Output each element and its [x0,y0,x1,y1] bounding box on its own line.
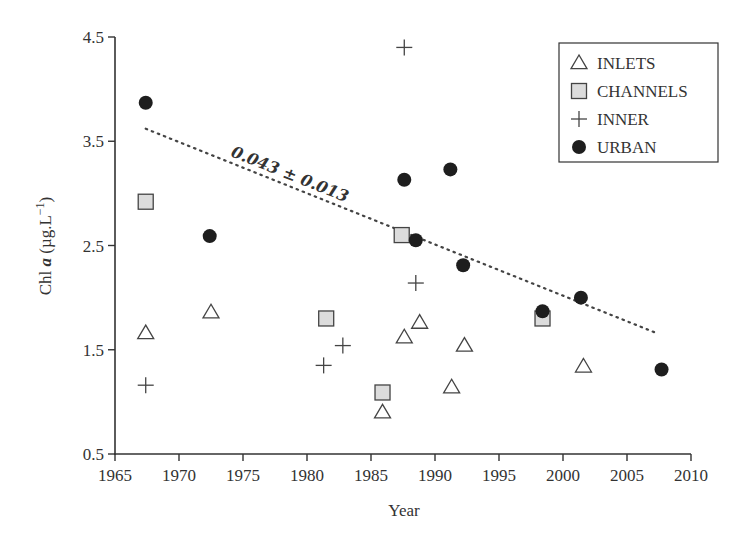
data-point [396,329,412,343]
data-point [575,358,591,372]
x-tick-label: 2000 [546,466,580,485]
data-point [536,304,550,318]
data-point [335,338,351,354]
x-tick-label: 1990 [418,466,452,485]
legend-label: INNER [597,110,650,129]
x-tick-label: 1995 [482,466,516,485]
legend-marker-icon [572,84,587,99]
data-point [397,173,411,187]
legend-label: URBAN [597,138,657,157]
series-inlets [138,304,592,418]
data-point [456,338,472,352]
data-point [409,233,423,247]
x-tick-label: 1980 [290,466,324,485]
y-tick-label: 0.5 [83,445,104,464]
x-tick-label: 1975 [226,466,260,485]
data-point [408,275,424,291]
data-point [456,258,470,272]
legend-label: INLETS [597,54,656,73]
scatter-chart: 0.51.52.53.54.51965197019751980198519901… [0,0,756,548]
data-point [444,379,460,393]
y-tick-label: 4.5 [83,28,104,47]
y-tick-label: 1.5 [83,341,104,360]
data-point [574,291,588,305]
trend-annotation: 0.043 ± 0.013 [229,142,352,206]
data-point [412,315,428,329]
data-point [396,39,412,55]
series-inner [138,39,424,393]
y-axis-label: Chl a (µg.L−1) [33,197,55,296]
data-point [138,325,154,339]
data-point [394,228,409,243]
series-channels [138,194,550,400]
data-point [138,377,154,393]
legend: INLETSCHANNELSINNERURBAN [559,43,718,162]
x-tick-label: 1985 [354,466,388,485]
legend-marker-icon [572,140,586,154]
x-tick-label: 2005 [610,466,644,485]
x-tick-label: 1970 [162,466,196,485]
data-point [375,385,390,400]
x-tick-label: 1965 [98,466,132,485]
data-point [316,357,332,373]
data-point [203,229,217,243]
data-point [139,96,153,110]
y-tick-label: 3.5 [83,132,104,151]
y-tick-label: 2.5 [83,237,104,256]
x-tick-label: 2010 [674,466,708,485]
x-axis-label: Year [388,501,420,520]
data-point [319,311,334,326]
data-point [655,363,669,377]
data-point [375,404,391,418]
data-point [138,194,153,209]
data-point [203,304,219,318]
data-point [443,162,457,176]
legend-label: CHANNELS [597,82,688,101]
